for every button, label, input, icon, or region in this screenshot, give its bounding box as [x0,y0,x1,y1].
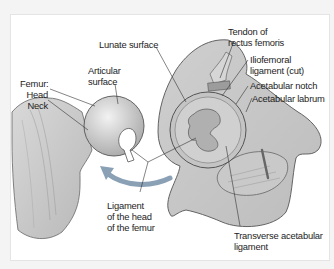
label-transverse-1: Transverse acetabular [234,231,323,242]
label-head: Head [20,90,48,101]
label-ligament-head-2: of the head [107,212,152,223]
label-acetabular-notch: Acetabular notch [250,81,317,92]
femur-shaft [12,98,92,239]
label-articular-surface-2: surface [88,77,117,88]
label-articular-surface-1: Articular [88,66,121,77]
label-femur: Femur: [20,79,48,90]
label-ligament-head-3: of the femur [107,223,155,234]
label-iliofemoral-1: Iliofemoral [250,55,291,66]
label-iliofemoral-2: ligament (cut) [250,66,304,77]
label-ligament-head-1: Ligament [107,201,144,212]
label-lunate-surface: Lunate surface [99,40,158,51]
label-neck: Neck [20,101,48,112]
label-acetabular-labrum: Acetabular labrum [252,94,325,105]
label-transverse-2: ligament [234,242,268,253]
fovea [119,128,136,162]
label-tendon-2: rectus femoris [228,38,284,49]
label-tendon-1: Tendon of [228,27,267,38]
dislocation-arrow [108,174,170,184]
